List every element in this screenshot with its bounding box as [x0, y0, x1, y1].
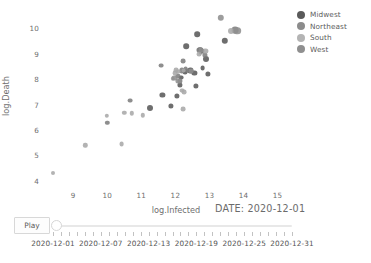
slider-tick-label: 2020-12-19	[175, 239, 218, 248]
scatter-point[interactable]	[168, 103, 173, 108]
legend-item-label: West	[310, 45, 328, 54]
slider-tick	[268, 232, 269, 236]
slider-track[interactable]	[53, 225, 292, 228]
legend: MidwestNortheastSouthWest	[297, 9, 371, 55]
y-axis-tick: 4	[34, 176, 39, 185]
slider-tick	[69, 232, 70, 236]
scatter-point[interactable]	[130, 111, 134, 115]
legend-item-label: Northeast	[310, 22, 347, 31]
slider-tick-label: 2020-12-07	[79, 239, 122, 248]
scatter-point[interactable]	[194, 31, 200, 37]
scatter-point[interactable]	[188, 69, 193, 74]
scatter-point[interactable]	[83, 143, 87, 147]
slider-tick-label: 2020-12-31	[270, 239, 313, 248]
slider-handle[interactable]	[51, 220, 62, 231]
plot-canvas: 456789109101112131415	[46, 12, 298, 187]
timeline-controls: Play 2020-12-012020-12-072020-12-132020-…	[0, 212, 371, 263]
y-axis-tick: 6	[34, 125, 39, 134]
scatter-point[interactable]	[180, 106, 185, 111]
slider-tick	[85, 232, 86, 236]
scatter-point[interactable]	[105, 121, 109, 125]
x-axis-tick: 15	[273, 191, 283, 200]
scatter-point[interactable]	[234, 27, 242, 35]
slider-tick	[292, 232, 293, 236]
scatter-point[interactable]	[222, 37, 228, 43]
legend-item-northeast[interactable]: Northeast	[297, 21, 371, 33]
scatter-point[interactable]	[127, 98, 132, 103]
slider-tick	[236, 232, 237, 236]
y-axis-title: log.Death	[1, 76, 11, 116]
y-axis-tick: 8	[34, 75, 39, 84]
slider-tick	[244, 232, 245, 236]
scatter-point[interactable]	[218, 15, 224, 21]
scatter-point[interactable]	[200, 66, 205, 71]
slider-ticks	[53, 232, 292, 237]
legend-item-west[interactable]: West	[297, 44, 371, 56]
scatter-point[interactable]	[183, 43, 189, 49]
slider-tick	[157, 232, 158, 236]
y-axis-tick: 7	[34, 100, 39, 109]
x-axis-tick: 11	[137, 191, 147, 200]
slider-tick	[149, 232, 150, 236]
slider-tick	[109, 232, 110, 236]
legend-swatch-icon	[297, 34, 305, 42]
legend-item-south[interactable]: South	[297, 32, 371, 44]
x-axis-tick: 9	[71, 191, 76, 200]
slider-tick	[165, 232, 166, 236]
scatter-point[interactable]	[119, 141, 124, 146]
y-axis-tick: 10	[29, 24, 39, 33]
legend-swatch-icon	[297, 11, 305, 19]
scatter-point[interactable]	[159, 63, 164, 68]
slider-tick-labels: 2020-12-012020-12-072020-12-132020-12-19…	[0, 239, 371, 251]
slider-tick	[252, 232, 253, 236]
legend-swatch-icon	[297, 45, 305, 53]
slider-tick-label: 2020-12-13	[127, 239, 170, 248]
scatter-point[interactable]	[182, 90, 187, 95]
legend-swatch-icon	[297, 22, 305, 30]
slider-tick	[188, 232, 189, 236]
scatter-point[interactable]	[194, 84, 199, 89]
slider-tick	[220, 232, 221, 236]
slider-tick	[53, 232, 54, 236]
slider-tick	[61, 232, 62, 236]
slider-tick	[180, 232, 181, 236]
slider-tick	[228, 232, 229, 236]
slider-tick	[77, 232, 78, 236]
x-axis-tick: 13	[205, 191, 215, 200]
legend-item-label: Midwest	[310, 10, 341, 19]
slider-tick-label: 2020-12-25	[222, 239, 265, 248]
scatter-point[interactable]	[181, 68, 186, 73]
legend-item-midwest[interactable]: Midwest	[297, 9, 371, 21]
slider-tick	[133, 232, 134, 236]
slider-tick	[141, 232, 142, 236]
play-button[interactable]: Play	[14, 217, 50, 234]
y-axis-tick: 9	[34, 49, 39, 58]
animated-scatter-app: log.Death log.Infected DATE: 2020-12-01 …	[0, 0, 371, 263]
x-axis-tick: 12	[171, 191, 181, 200]
scatter-point[interactable]	[205, 71, 210, 76]
scatter-point[interactable]	[51, 171, 55, 175]
scatter-point[interactable]	[175, 94, 180, 99]
scatter-point[interactable]	[104, 114, 108, 118]
scatter-point[interactable]	[147, 105, 153, 111]
slider-tick	[93, 232, 94, 236]
slider-tick	[196, 232, 197, 236]
slider-tick	[260, 232, 261, 236]
slider-tick	[212, 232, 213, 236]
slider-tick	[284, 232, 285, 236]
x-axis-tick: 14	[239, 191, 249, 200]
legend-item-label: South	[310, 33, 332, 42]
y-axis-tick: 5	[34, 151, 39, 160]
x-axis-tick: 10	[103, 191, 113, 200]
scatter-point[interactable]	[160, 92, 165, 97]
scatter-point[interactable]	[176, 69, 181, 74]
slider-tick	[125, 232, 126, 236]
scatter-point[interactable]	[141, 113, 145, 117]
slider-tick	[276, 232, 277, 236]
slider-tick	[204, 232, 205, 236]
scatter-point[interactable]	[122, 110, 126, 114]
slider-tick-label: 2020-12-01	[31, 239, 74, 248]
slider-tick	[117, 232, 118, 236]
slider-tick	[101, 232, 102, 236]
scatter-point[interactable]	[180, 59, 185, 64]
